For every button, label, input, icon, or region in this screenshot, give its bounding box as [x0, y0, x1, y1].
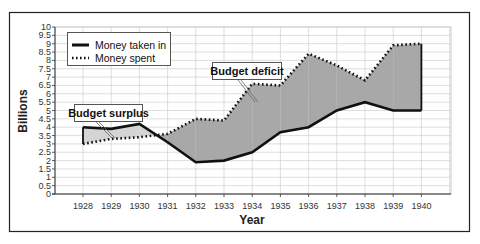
x-tick-label: 1933: [214, 201, 234, 211]
legend-label-spent: Money spent: [95, 52, 155, 64]
x-tick-label: 1930: [129, 201, 149, 211]
x-tick-label: 1932: [186, 201, 206, 211]
x-tick-label: 1937: [327, 201, 347, 211]
x-tick-label: 1938: [355, 201, 375, 211]
x-tick-label: 1929: [101, 201, 121, 211]
svg-text:Budget deficit: Budget deficit: [210, 65, 284, 77]
x-tick-label: 1939: [383, 201, 403, 211]
x-tick-label: 1934: [242, 201, 262, 211]
x-tick-label: 1935: [270, 201, 290, 211]
x-tick-label: 1936: [299, 201, 319, 211]
budget-chart: 00.511.522.533.544.555.566.577.588.599.5…: [0, 0, 480, 244]
x-axis-title: Year: [239, 213, 265, 227]
y-axis-title: Billions: [16, 89, 30, 133]
legend: Money taken in Money spent: [68, 33, 171, 66]
x-tick-label: 1931: [158, 201, 178, 211]
x-tick-label: 1940: [411, 201, 431, 211]
chart-canvas: 00.511.522.533.544.555.566.577.588.599.5…: [0, 0, 480, 244]
svg-text:Budget surplus: Budget surplus: [68, 107, 149, 119]
x-tick-label: 1928: [73, 201, 93, 211]
legend-label-taken-in: Money taken in: [95, 39, 166, 51]
y-tick-label: 10: [41, 22, 51, 32]
